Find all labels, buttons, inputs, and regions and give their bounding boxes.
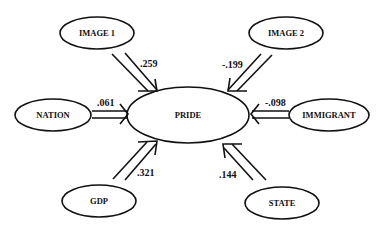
arrow-head-icon [251,104,259,124]
edge-image1-pride: .259 [112,53,158,91]
nation-label: NATION [36,110,70,120]
image1-label: IMAGE 1 [79,28,115,38]
node-image1: IMAGE 1 [60,17,134,49]
coef-immigrant: -.098 [265,97,286,108]
coef-gdp: .321 [137,167,155,178]
node-image2: IMAGE 2 [249,17,323,49]
gdp-label: GDP [90,196,108,206]
coef-nation: .061 [97,97,115,108]
node-state: STATE [245,187,319,219]
node-gdp: GDP [62,185,136,217]
node-immigrant: IMMIGRANT [289,99,369,131]
coef-image2: -.199 [222,59,243,70]
arrow-head-icon [138,79,157,91]
image2-label: IMAGE 2 [268,28,304,38]
edge-nation-pride: .061 [92,97,128,124]
coef-image1: .259 [140,58,158,69]
node-nation: NATION [15,99,91,131]
state-label: STATE [269,198,296,208]
immigrant-label: IMMIGRANT [302,110,356,120]
node-pride: PRIDE [127,87,249,143]
edge-image2-pride: -.199 [222,54,272,91]
pride-label: PRIDE [175,110,202,120]
coef-state: .144 [219,169,237,180]
edge-immigrant-pride: -.098 [251,97,289,124]
edge-gdp-pride: .321 [113,141,157,180]
edge-state-pride: .144 [219,144,266,180]
path-diagram: PRIDE IMAGE 1 .259 IMAGE 2 -.199 NATION … [0,0,381,230]
